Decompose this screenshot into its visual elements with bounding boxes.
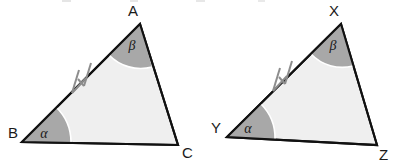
vertex-label-x: X [329,2,339,19]
angle-label-beta-a: β [128,38,136,53]
vertex-label-z: Z [379,146,388,163]
angle-label-beta-x: β [329,38,337,53]
angle-label-alpha-b: α [40,126,48,141]
vertex-label-y: Y [211,119,221,136]
angle-label-alpha-y: α [244,121,252,136]
geometry-figure: B A C α β Y X Z [0,0,398,166]
figure-canvas: B A C α β Y X Z [0,0,398,166]
vertex-label-b: B [8,124,18,141]
vertex-label-c: C [182,144,193,161]
vertex-label-a: A [128,2,138,19]
